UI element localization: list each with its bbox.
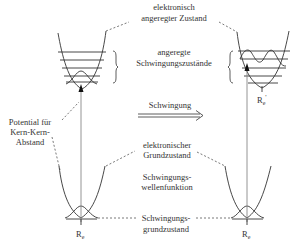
left-ground-potential-curve <box>59 166 105 218</box>
potential-label-3: Abstand <box>16 137 45 147</box>
right-ground-wavefunction <box>231 206 264 218</box>
left-transition-arrow-icon <box>79 84 84 92</box>
ground-state-label-1: elektronischer <box>143 140 191 150</box>
potential-label-1: Potential für <box>9 117 51 127</box>
potential-connector-lower <box>52 137 60 170</box>
re-right-label: Re <box>242 229 251 240</box>
left-ground-wavefunction <box>65 206 98 218</box>
vibration-double-arrow-icon <box>138 111 203 121</box>
vib-ground-label-1: Schwingungs- <box>142 213 191 223</box>
franck-condon-diagram: elektronisch angeregter Zustand angeregt… <box>0 0 293 246</box>
excited-vib-label-1: angeregte <box>157 47 190 57</box>
ground-state-label-2: Grundzustand <box>143 150 191 160</box>
excited-state-connector-left <box>106 22 129 31</box>
right-brace <box>228 51 233 83</box>
ground-state-connector-right <box>197 152 225 166</box>
excited-state-connector-right <box>219 22 237 32</box>
vibration-label: Schwingung <box>149 100 192 110</box>
potential-connector-upper <box>62 102 79 120</box>
left-brace <box>113 51 118 83</box>
wavefunction-label-2: wellenfunktion <box>141 182 193 192</box>
re-prime-label: Re' <box>257 93 267 106</box>
excited-state-label-1: elektronisch <box>153 2 195 12</box>
right-ground-potential-curve <box>225 166 271 218</box>
excited-vib-label-2: Schwingungszustände <box>136 58 212 68</box>
re-left-label: Re <box>76 229 85 240</box>
excited-state-label-2: angeregter Zustand <box>141 13 207 23</box>
vib-ground-label-2: grundzustand <box>143 224 190 234</box>
potential-label-2: Kern-Kern- <box>10 127 50 137</box>
wavefunction-label-1: Schwingungs- <box>143 172 192 182</box>
ground-state-connector-left <box>106 151 135 166</box>
